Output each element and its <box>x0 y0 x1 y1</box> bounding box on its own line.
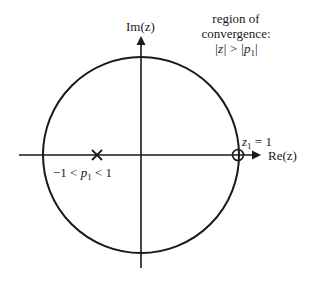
roc-rhs-open: |p <box>240 41 250 56</box>
roc-line-2: convergence: <box>196 26 276 41</box>
roc-condition: |z| > |p1| <box>196 41 276 56</box>
zero-value: = 1 <box>252 134 272 149</box>
roc-line-1: region of <box>196 11 276 26</box>
pole-prefix: −1 < <box>53 165 81 180</box>
zero-label: z1 = 1 <box>242 134 272 149</box>
roc-lhs: |z| <box>214 41 226 56</box>
roc-rhs-close: | <box>255 41 258 56</box>
real-axis-arrowhead-icon <box>252 151 261 160</box>
pole-suffix: < 1 <box>92 165 112 180</box>
pole-label: −1 < p1 < 1 <box>53 165 112 180</box>
region-of-convergence-note: region of convergence: |z| > |p1| <box>196 11 276 56</box>
roc-operator: > <box>227 41 241 56</box>
imaginary-axis-label: Im(z) <box>126 19 155 34</box>
real-axis-label: Re(z) <box>268 148 297 163</box>
imaginary-axis-arrowhead-icon <box>137 36 146 45</box>
